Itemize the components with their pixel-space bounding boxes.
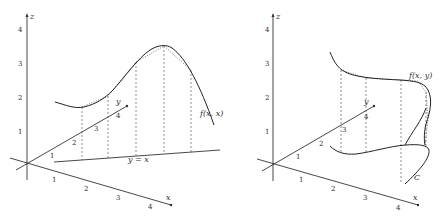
right-x-arrow-icon bbox=[417, 204, 419, 206]
left-y-tick-2: 2 bbox=[72, 139, 76, 147]
right-path-curve-segment bbox=[405, 108, 426, 145]
left-y-tick-4: 4 bbox=[116, 112, 121, 120]
left-x-axis bbox=[10, 158, 171, 205]
right-x-tick-2: 2 bbox=[331, 185, 335, 193]
left-curve-label: f(x, x) bbox=[199, 109, 223, 118]
left-y-arrow-icon bbox=[126, 105, 128, 107]
right-x-tick-3: 3 bbox=[363, 194, 367, 202]
right-z-tick-3: 3 bbox=[265, 60, 269, 68]
left-curve bbox=[55, 46, 214, 125]
left-z-axis-label: z bbox=[29, 12, 35, 21]
left-diagonal-label: y = x bbox=[127, 155, 149, 164]
left-x-tick-1: 1 bbox=[52, 176, 56, 184]
right-y-tick-4: 4 bbox=[364, 113, 369, 121]
diagram-canvas: z 4 3 2 1 x 1 2 3 4 y 1 2 3 4 y = x f(x, bbox=[0, 0, 440, 219]
right-x-tick-1: 1 bbox=[299, 176, 303, 184]
right-y-tick-2: 2 bbox=[319, 140, 323, 148]
left-z-tick-1: 1 bbox=[18, 128, 22, 136]
right-curve-label: f(x, y) bbox=[408, 71, 432, 80]
right-path-label: C bbox=[414, 173, 420, 182]
left-y-tick-3: 3 bbox=[94, 125, 98, 133]
right-x-tick-4: 4 bbox=[396, 204, 401, 212]
right-z-tick-2: 2 bbox=[265, 94, 269, 102]
right-z-arrow-icon bbox=[272, 13, 275, 17]
left-figure: z 4 3 2 1 x 1 2 3 4 y 1 2 3 4 y = x f(x, bbox=[10, 12, 223, 211]
left-x-tick-3: 3 bbox=[116, 194, 120, 202]
left-x-axis-label: x bbox=[166, 193, 171, 202]
right-x-axis bbox=[257, 159, 418, 205]
left-z-arrow-icon bbox=[26, 13, 29, 17]
right-y-arrow-icon bbox=[373, 105, 375, 107]
left-z-tick-4: 4 bbox=[18, 26, 23, 34]
left-y-tick-1: 1 bbox=[50, 152, 54, 160]
left-z-tick-3: 3 bbox=[18, 60, 22, 68]
right-z-axis-label: z bbox=[275, 12, 281, 21]
left-approximation-polyline bbox=[82, 46, 191, 107]
left-y-axis-label: y bbox=[115, 97, 121, 106]
left-x-arrow-icon bbox=[170, 204, 172, 206]
right-z-tick-4: 4 bbox=[265, 26, 270, 34]
right-figure: z 4 3 2 1 x 1 2 3 4 y 1 2 3 4 C f(x, y) bbox=[257, 12, 432, 212]
right-y-axis bbox=[262, 106, 374, 171]
right-z-tick-1: 1 bbox=[265, 128, 269, 136]
right-y-tick-3: 3 bbox=[342, 126, 346, 134]
right-y-tick-1: 1 bbox=[296, 153, 300, 161]
right-x-axis-label: x bbox=[413, 193, 418, 202]
left-z-tick-2: 2 bbox=[18, 94, 22, 102]
left-x-tick-4: 4 bbox=[148, 203, 153, 211]
left-x-tick-2: 2 bbox=[84, 185, 88, 193]
